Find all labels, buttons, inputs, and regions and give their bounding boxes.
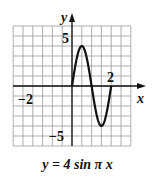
tick-label-2: 2	[107, 70, 114, 85]
plot: y x −2 2 5 −5	[0, 0, 155, 182]
x-axis-arrow-icon	[137, 83, 146, 89]
y-axis-label: y	[59, 10, 68, 25]
tick-label-5: 5	[62, 31, 69, 46]
equation-caption: y = 4 sin π x	[0, 157, 155, 173]
tick-label-neg2: −2	[18, 92, 33, 107]
tick-label-neg5: −5	[49, 129, 64, 144]
y-axis-arrow-icon	[69, 13, 75, 22]
x-axis-label: x	[136, 91, 144, 106]
